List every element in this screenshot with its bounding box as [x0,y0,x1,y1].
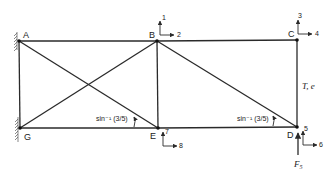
dof-arrows-C [298,20,312,34]
angle-label-E: sin⁻¹ (3/5) [96,115,128,123]
node-label-C: C [288,29,295,39]
dof-label-3: 3 [298,12,302,19]
member-BD [157,41,297,127]
member-AG [19,41,20,128]
load-label: F5 [293,159,303,170]
dof-label-7: 7 [165,128,169,135]
member-label-CD: T, e [302,81,315,91]
angle-arc-D-icon [273,116,274,126]
node-label-D: D [287,130,294,140]
dof-label-6: 6 [319,141,323,148]
truss-diagram: A B C G E D 1 2 3 4 7 8 5 6 F5 T, e sin⁻… [0,0,335,178]
joint-G [18,126,22,130]
node-label-E: E [150,131,156,141]
angle-arc-E-icon [134,117,135,127]
joint-D [295,125,299,129]
wall-support-A [14,32,17,51]
member-ED [158,127,297,128]
dof-arrows-D [303,131,317,145]
member-BC [157,40,297,41]
node-label-A: A [23,30,29,40]
dof-label-5: 5 [304,125,308,132]
joint-E [156,126,160,130]
joint-B [155,39,159,43]
node-label-G: G [24,132,31,142]
joint-C [295,38,299,42]
dof-label-4: 4 [315,30,319,37]
dof-label-8: 8 [179,142,183,149]
member-BE [157,41,158,128]
dof-arrows-B [160,21,174,35]
dof-label-1: 1 [162,14,166,21]
angle-label-D: sin⁻¹ (3/5) [237,115,269,123]
joint-A [17,39,21,43]
node-label-B: B [149,30,155,40]
wall-support-G [15,117,18,142]
dof-label-2: 2 [177,31,181,38]
